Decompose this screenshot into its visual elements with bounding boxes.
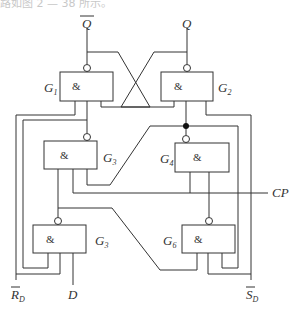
interconnect-wires [16,101,268,285]
gate-label-g5: G3 [95,233,108,250]
q-output: Q [182,16,192,64]
inverter-bubble-icon [84,65,91,72]
and-symbol: & [194,233,203,245]
q-label: Q [182,16,192,31]
inverter-bubble-icon [184,65,191,72]
gate-label-g6: G6 [163,233,176,250]
and-symbol: & [72,80,81,92]
gate-label-g1: G1 [44,80,57,97]
junction-dot-icon [183,123,189,129]
and-symbol: & [60,149,69,161]
q-bar-output: Q [80,16,94,64]
gate-g5: & G3 [33,218,108,254]
gate-g1: & G1 [44,65,113,102]
gate-g4: & G4 [160,136,229,173]
inverter-bubble-icon [55,218,62,225]
rd-label: RD [10,287,25,304]
and-symbol: & [193,151,202,163]
cp-label: CP [272,185,289,200]
sd-label: SD [246,287,259,304]
inverter-bubble-icon [206,218,213,225]
inverter-bubble-icon [183,136,190,143]
gate-g3: & G3 [44,134,116,170]
inverter-bubble-icon [84,134,91,141]
gate-g2: & G2 [161,65,231,102]
gate-label-g4: G4 [160,151,173,168]
d-label: D [67,287,78,302]
gate-g6: & G6 [163,218,235,254]
gate-label-g2: G2 [218,80,231,97]
svg-text:RD: RD [10,287,25,304]
svg-text:SD: SD [246,287,259,304]
and-symbol: & [174,80,183,92]
gate-label-g3: G3 [103,150,116,167]
and-symbol: & [46,233,55,245]
flip-flop-circuit-diagram: Q Q & G1 & G2 & G3 & G4 [0,0,300,319]
q-bar-label: Q [82,16,92,31]
